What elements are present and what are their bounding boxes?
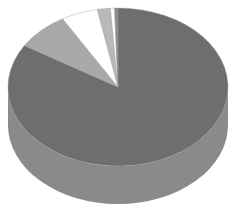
pie-top [8,8,228,166]
pie-chart-3d [0,0,234,212]
